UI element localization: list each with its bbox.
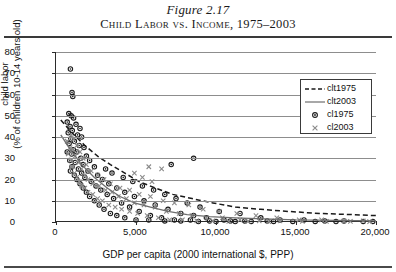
- y-tick-mark: [52, 95, 56, 96]
- data-point-core: [70, 138, 72, 140]
- data-point-cl2003: [159, 167, 163, 171]
- legend-label-cl1975: cl1975: [327, 108, 373, 121]
- legend-item-cl2003: cl2003: [301, 121, 373, 134]
- data-point-core: [79, 128, 81, 130]
- data-point-cl2003: [119, 207, 123, 211]
- data-point-core: [89, 196, 91, 198]
- data-point-core: [105, 168, 107, 170]
- legend-item-clt1975: clt1975: [301, 82, 373, 95]
- data-point-core: [70, 68, 72, 70]
- x-tick-mark: [136, 221, 137, 225]
- data-point-core: [103, 209, 105, 211]
- data-point-core: [250, 221, 252, 223]
- data-point-core: [164, 194, 166, 196]
- data-point-cl2003: [127, 188, 131, 192]
- legend-symbol-circle-marker: [304, 108, 326, 121]
- gridline: [56, 52, 376, 53]
- gridline: [56, 180, 376, 181]
- data-point-cl2003: [95, 173, 99, 178]
- trendline-clt2003: [61, 135, 376, 221]
- y-tick-mark: [52, 137, 56, 138]
- legend-symbol-x-marker: [304, 121, 326, 134]
- data-point-core: [78, 145, 80, 147]
- data-point-cl2003: [217, 209, 221, 213]
- y-tick-label: 60: [0, 89, 15, 100]
- data-point-core: [73, 117, 75, 119]
- data-point-core: [150, 215, 152, 217]
- y-tick-label: 70: [0, 67, 15, 78]
- data-point-cl2003: [148, 194, 152, 198]
- data-point-cl2003: [167, 218, 171, 222]
- data-point-core: [70, 170, 72, 172]
- data-point-core: [83, 147, 85, 149]
- data-point-cl2003: [113, 205, 117, 209]
- x-tick-label: 10,000: [185, 226, 245, 237]
- x-tick-label: 20,000: [345, 226, 396, 237]
- data-point-core: [67, 132, 69, 134]
- data-point-core: [110, 213, 112, 215]
- data-point-core: [142, 185, 144, 187]
- data-point-core: [86, 155, 88, 157]
- data-point-core: [154, 204, 156, 206]
- data-point-core: [124, 192, 126, 194]
- data-point-core: [292, 221, 294, 223]
- data-point-core: [89, 160, 91, 162]
- data-point-core: [116, 215, 118, 217]
- y-tick-label: 40: [0, 131, 15, 142]
- data-point-core: [122, 177, 124, 179]
- legend-label-clt2003: clt2003: [327, 95, 373, 108]
- gridline: [56, 137, 376, 138]
- y-tick-mark: [52, 158, 56, 159]
- plot-area: [55, 52, 375, 222]
- x-tick-mark: [296, 221, 297, 225]
- data-point-core: [75, 124, 77, 126]
- legend-label-cl2003: cl2003: [327, 121, 373, 134]
- figure-title: Child Labor vs. Income, 1975–2003: [0, 17, 396, 32]
- figure-number: Figure 2.17: [0, 2, 396, 18]
- data-point-core: [161, 217, 163, 219]
- y-tick-mark: [52, 180, 56, 181]
- data-point-core: [190, 219, 192, 221]
- data-point-core: [98, 204, 100, 206]
- data-point-core: [72, 96, 74, 98]
- data-point-cl2003: [107, 203, 111, 207]
- x-tick-label: 5,000: [105, 226, 165, 237]
- data-point-cl2003: [137, 192, 141, 196]
- y-tick-label: 20: [0, 174, 15, 185]
- data-point-core: [239, 213, 241, 215]
- y-tick-label: 0: [0, 216, 15, 227]
- data-point-core: [84, 177, 86, 179]
- x-tick-label: 15,000: [265, 226, 325, 237]
- y-tick-label: 80: [0, 46, 15, 57]
- data-point-cl2003: [70, 165, 74, 170]
- data-point-cl2003: [127, 209, 131, 213]
- legend-item-cl1975: cl1975: [301, 108, 373, 121]
- data-point-core: [174, 219, 176, 221]
- data-point-core: [134, 196, 136, 198]
- data-point-core: [77, 134, 79, 136]
- x-axis-title: GDP per capita (2000 international $, PP…: [0, 249, 396, 260]
- data-point-core: [78, 168, 80, 170]
- data-point-core: [148, 219, 150, 221]
- y-tick-mark: [52, 52, 56, 53]
- data-point-core: [111, 172, 113, 174]
- data-point-core: [170, 164, 172, 166]
- data-point-cl2003: [254, 213, 258, 217]
- legend-item-clt2003: clt2003: [301, 95, 373, 108]
- x-tick-mark: [216, 221, 217, 225]
- figure-container: Figure 2.17 Child Labor vs. Income, 1975…: [0, 0, 396, 272]
- y-tick-mark: [52, 73, 56, 74]
- data-point-core: [95, 185, 97, 187]
- legend-symbol-dashed-line: [304, 82, 326, 95]
- data-point-core: [71, 92, 73, 94]
- data-point-core: [72, 130, 74, 132]
- top-divider-rule: [4, 36, 392, 38]
- data-point-core: [124, 217, 126, 219]
- x-tick-label: 0: [25, 226, 85, 237]
- data-point-core: [106, 194, 108, 196]
- data-point-core: [116, 187, 118, 189]
- data-point-core: [175, 198, 177, 200]
- data-point-core: [66, 121, 68, 123]
- y-tick-label: 50: [0, 110, 15, 121]
- x-tick-mark: [376, 221, 377, 225]
